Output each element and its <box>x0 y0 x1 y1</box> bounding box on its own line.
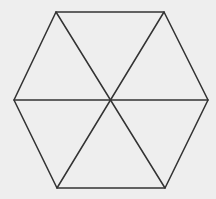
hexagon-figure <box>0 0 216 199</box>
hexagon-diagram <box>0 0 216 199</box>
